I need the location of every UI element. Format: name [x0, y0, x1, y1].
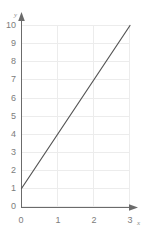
- y-axis: [18, 12, 25, 208]
- data-series-line: [22, 26, 131, 189]
- y-tick-label-6: 6: [0, 94, 16, 103]
- y-tick-label-8: 8: [0, 57, 16, 66]
- line-chart: 10 9 8 7 6 5 4 3 2 1 0 0 1 2 3 y x: [0, 0, 144, 232]
- x-axis-label: x: [137, 220, 140, 227]
- y-tick-label-5: 5: [0, 112, 16, 121]
- x-axis: [21, 204, 138, 211]
- y-tick-label-10: 10: [0, 21, 16, 30]
- x-tick-label-0: 0: [15, 216, 27, 225]
- y-axis-label: y: [14, 12, 17, 19]
- x-tick-label-2: 2: [88, 216, 100, 225]
- plot-area: [0, 0, 144, 232]
- grid-horizontal: [21, 26, 130, 207]
- y-tick-label-0: 0: [0, 202, 16, 211]
- y-tick-label-1: 1: [0, 184, 16, 193]
- y-tick-label-9: 9: [0, 39, 16, 48]
- x-tick-label-3: 3: [124, 216, 136, 225]
- x-tick-label-1: 1: [52, 216, 64, 225]
- y-tick-label-4: 4: [0, 130, 16, 139]
- y-tick-label-3: 3: [0, 148, 16, 157]
- y-tick-label-7: 7: [0, 75, 16, 84]
- y-tick-label-2: 2: [0, 166, 16, 175]
